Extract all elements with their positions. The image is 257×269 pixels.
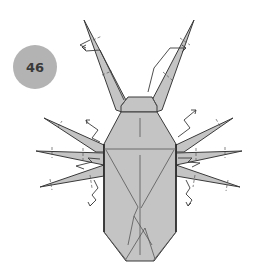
- zigzag-arrow-left-lower: [88, 180, 98, 206]
- origami-diagram: [0, 0, 257, 269]
- head: [121, 97, 157, 112]
- zigzag-arrow-right-lower: [186, 180, 192, 206]
- leg-left-3: [40, 165, 104, 190]
- body: [104, 112, 176, 261]
- antenna-right: [148, 20, 194, 112]
- leg-right-1: [176, 118, 233, 152]
- zigzag-arrow-right-upper: [178, 110, 196, 137]
- leg-left-1: [44, 118, 104, 152]
- antenna-left: [80, 20, 128, 112]
- leg-right-3: [176, 165, 240, 191]
